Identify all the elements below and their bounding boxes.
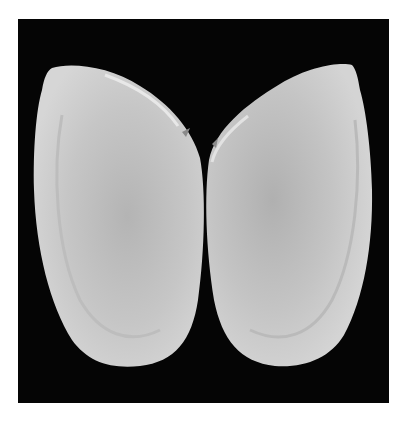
right-valve	[206, 64, 372, 366]
bivalve-shell-illustration	[0, 0, 407, 422]
